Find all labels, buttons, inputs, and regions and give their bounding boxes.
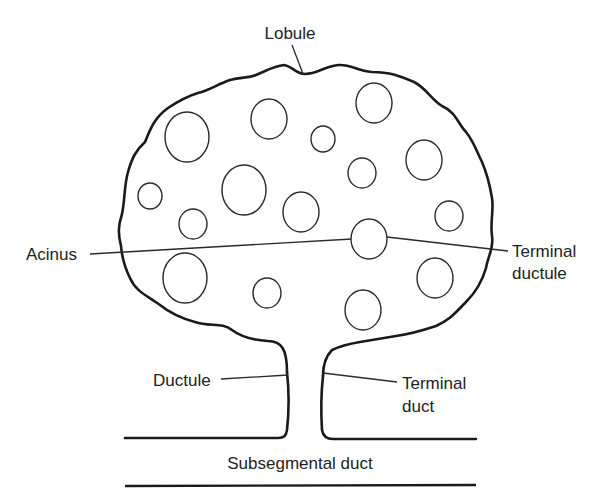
ductule-leader-line xyxy=(221,375,288,379)
subsegmental-duct-bottom-wall xyxy=(125,485,476,486)
acinus-circle xyxy=(253,278,281,308)
terminal-ductule-label-line1: Terminal xyxy=(512,242,576,261)
ductule-label: Ductule xyxy=(153,371,211,390)
acinus-circle xyxy=(311,126,335,152)
acinus-circle xyxy=(356,83,392,123)
acini-group xyxy=(138,83,463,330)
terminal-duct-label-line2: duct xyxy=(402,397,434,416)
lobule-label: Lobule xyxy=(264,24,315,43)
acinus-circle xyxy=(251,99,287,139)
acinus-circle xyxy=(435,201,463,231)
acinus-leader-line xyxy=(90,239,352,254)
acinus-circle xyxy=(283,192,319,232)
acinus-circle xyxy=(222,165,266,215)
acinus-circle xyxy=(417,258,453,298)
terminal-ductule-label-line2: ductule xyxy=(512,264,567,283)
subsegmental-duct-label: Subsegmental duct xyxy=(227,454,373,473)
terminal-duct-label-line1: Terminal xyxy=(402,374,466,393)
acinus-circle xyxy=(165,112,209,162)
acinus-circle xyxy=(345,290,381,330)
lobule-diagram: Lobule Acinus Terminal ductule Ductule T… xyxy=(0,0,605,502)
acinus-circle xyxy=(138,183,162,209)
acinus-circle xyxy=(348,158,376,188)
acinus-circle xyxy=(179,209,207,239)
acinus-circle xyxy=(163,253,207,303)
acinus-label: Acinus xyxy=(26,245,77,264)
terminal-ductule-leader-line xyxy=(387,237,508,251)
terminal-duct-leader-line xyxy=(323,373,397,382)
acinus-circle xyxy=(406,140,442,180)
labeled-acinus-circle xyxy=(351,219,387,259)
